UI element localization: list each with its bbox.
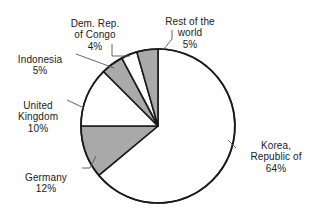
- pie-label-united-kingdom-value: 10%: [2, 123, 74, 135]
- pie-label-united-kingdom: United Kingdom 10%: [2, 88, 74, 146]
- pie-label-indonesia-name: Indonesia: [18, 54, 62, 65]
- pie-label-indonesia-value: 5%: [4, 65, 76, 77]
- pie-label-indonesia: Indonesia 5%: [4, 42, 76, 88]
- pie-label-germany-name: Germany: [25, 172, 67, 183]
- pie-label-united-kingdom-name: United Kingdom: [18, 100, 58, 123]
- pie-label-rest-of-the-world: Rest of the world 5%: [150, 4, 230, 62]
- pie-label-korea-republic-of-value: 64%: [238, 163, 314, 175]
- pie-label-rest-of-the-world-name: Rest of the world: [165, 16, 214, 39]
- pie-label-dem-rep-of-congo-name: Dem. Rep. of Congo: [71, 18, 120, 41]
- pie-label-germany: Germany 12%: [10, 160, 82, 206]
- pie-chart-figure: Rest of the world 5% Dem. Rep. of Congo …: [0, 0, 316, 216]
- pie-label-korea-republic-of-name: Korea, Republic of: [250, 140, 301, 163]
- pie-label-korea-republic-of: Korea, Republic of 64%: [238, 128, 314, 186]
- pie-label-germany-value: 12%: [10, 183, 82, 195]
- pie-label-rest-of-the-world-value: 5%: [150, 39, 230, 51]
